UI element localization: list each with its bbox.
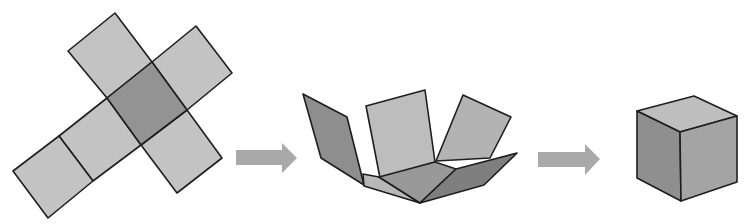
- arrow-right-icon: [236, 143, 297, 173]
- diagram-svg: [0, 0, 755, 224]
- arrow-right-icon: [538, 144, 600, 175]
- partially-folded-net: [303, 90, 517, 203]
- cube-folding-diagram: [0, 0, 755, 224]
- fold-right-flap: [436, 95, 511, 161]
- arrow-icon-1: [236, 143, 297, 173]
- fold-left-flap: [303, 94, 364, 185]
- folded-cube: [637, 96, 737, 201]
- unfolded-net: [13, 13, 232, 218]
- arrow-icon-2: [538, 144, 600, 175]
